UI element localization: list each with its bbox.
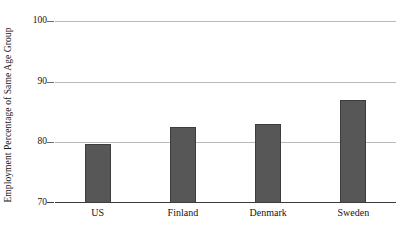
bar-denmark xyxy=(255,124,281,203)
gridline-100 xyxy=(55,21,396,22)
y-tick-label-90: 90 xyxy=(38,77,48,87)
x-axis-tick-labels: USFinlandDenmarkSweden xyxy=(55,207,396,225)
bar-finland xyxy=(170,127,196,203)
y-tick-mark-90 xyxy=(47,82,54,83)
y-tick-label-70: 70 xyxy=(38,198,48,208)
bar-chart: Employment Percentage of Same Age Group … xyxy=(0,0,402,230)
x-tick-label-us: US xyxy=(55,207,140,219)
y-tick-label-100: 100 xyxy=(33,16,47,26)
y-tick-mark-70 xyxy=(47,202,54,203)
y-tick-label-80: 80 xyxy=(38,137,48,147)
y-tick-mark-80 xyxy=(47,142,54,143)
x-tick-label-finland: Finland xyxy=(140,207,225,219)
gridline-90 xyxy=(55,82,396,83)
bar-sweden xyxy=(340,100,366,203)
bar-us xyxy=(85,144,111,203)
plot-area xyxy=(55,21,396,203)
x-tick-label-denmark: Denmark xyxy=(226,207,311,219)
y-axis-title: Employment Percentage of Same Age Group xyxy=(0,0,16,230)
y-axis-tick-labels: 708090100 xyxy=(26,21,47,203)
x-tick-label-sweden: Sweden xyxy=(311,207,396,219)
y-tick-mark-100 xyxy=(47,21,54,22)
